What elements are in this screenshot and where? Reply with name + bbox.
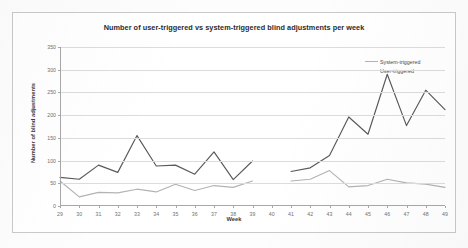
series-lines [60, 47, 445, 206]
x-tick-label: 36 [192, 211, 198, 217]
y-tick-label: 150 [47, 135, 56, 141]
series-line-user-triggered [60, 136, 253, 180]
x-tick-label: 44 [346, 211, 352, 217]
x-tick-mark [445, 206, 446, 208]
x-tick-mark [176, 206, 177, 208]
series-line-system-triggered [291, 171, 445, 188]
x-tick-mark [60, 206, 61, 208]
x-tick-label: 37 [211, 211, 217, 217]
x-tick-mark [330, 206, 331, 208]
x-tick-label: 38 [230, 211, 236, 217]
y-tick-mark [58, 138, 60, 139]
gridline [60, 138, 445, 139]
x-tick-mark [426, 206, 427, 208]
y-tick-label: 300 [47, 67, 56, 73]
x-tick-mark [368, 206, 369, 208]
x-tick-mark [214, 206, 215, 208]
y-tick-label: 350 [47, 44, 56, 50]
x-tick-mark [407, 206, 408, 208]
y-axis-label: Number of blind adjustments [30, 82, 36, 162]
x-tick-mark [387, 206, 388, 208]
x-tick-label: 48 [423, 211, 429, 217]
x-tick-mark [233, 206, 234, 208]
y-tick-label: 0 [53, 203, 56, 209]
x-tick-mark [156, 206, 157, 208]
x-tick-label: 47 [404, 211, 410, 217]
x-tick-label: 49 [442, 211, 448, 217]
y-tick-mark [58, 183, 60, 184]
chart-container: Number of user-triggered vs system-trigg… [12, 12, 456, 233]
x-tick-label: 46 [384, 211, 390, 217]
y-tick-label: 200 [47, 112, 56, 118]
x-tick-label: 41 [288, 211, 294, 217]
x-tick-mark [272, 206, 273, 208]
x-tick-mark [79, 206, 80, 208]
gridline [60, 115, 445, 116]
gridline [60, 70, 445, 71]
x-tick-mark [118, 206, 119, 208]
gridline [60, 183, 445, 184]
y-tick-mark [58, 115, 60, 116]
gridline [60, 92, 445, 93]
chart-title: Number of user-triggered vs system-trigg… [13, 23, 455, 32]
x-tick-label: 45 [365, 211, 371, 217]
x-tick-label: 39 [250, 211, 256, 217]
x-tick-label: 42 [307, 211, 313, 217]
gridline [60, 161, 445, 162]
gridline [60, 47, 445, 48]
x-tick-mark [291, 206, 292, 208]
x-tick-label: 33 [134, 211, 140, 217]
y-tick-label: 250 [47, 89, 56, 95]
y-tick-label: 100 [47, 158, 56, 164]
screenshot-page: Number of user-triggered vs system-trigg… [0, 0, 468, 248]
x-tick-label: 35 [173, 211, 179, 217]
series-line-user-triggered [291, 74, 445, 171]
x-tick-mark [137, 206, 138, 208]
y-tick-mark [58, 92, 60, 93]
x-tick-mark [349, 206, 350, 208]
x-tick-mark [195, 206, 196, 208]
x-tick-label: 43 [327, 211, 333, 217]
x-tick-mark [253, 206, 254, 208]
x-tick-label: 32 [115, 211, 121, 217]
y-tick-mark [58, 47, 60, 48]
y-tick-mark [58, 161, 60, 162]
y-tick-label: 50 [50, 180, 56, 186]
plot-area: 050100150200250300350 293031323334353637… [60, 47, 445, 206]
x-tick-label: 29 [57, 211, 63, 217]
x-tick-mark [310, 206, 311, 208]
x-tick-label: 31 [96, 211, 102, 217]
x-tick-label: 34 [153, 211, 159, 217]
x-tick-label: 30 [76, 211, 82, 217]
y-axis-line [60, 47, 61, 206]
x-tick-label: 40 [269, 211, 275, 217]
x-tick-mark [99, 206, 100, 208]
y-tick-mark [58, 70, 60, 71]
